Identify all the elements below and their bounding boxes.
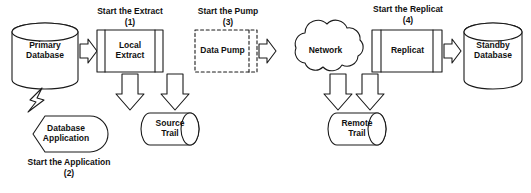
remote-trail-to-replicat-arrow	[356, 74, 384, 110]
replicat-shape	[372, 30, 442, 72]
remote-trail-shape	[328, 113, 386, 145]
database-application-shape	[33, 116, 108, 152]
application-to-primary-lightning-icon	[28, 88, 44, 112]
primary-database-shape	[12, 23, 78, 89]
data-pump-shape	[195, 30, 257, 72]
extract-to-source-trail-arrow	[116, 74, 144, 110]
goldengate-flow-diagram: Primary Database Local Extract Source Tr…	[0, 0, 531, 193]
standby-database-shape	[464, 23, 522, 89]
primary-to-extract-arrow	[80, 39, 97, 63]
local-extract-shape	[97, 30, 163, 72]
network-to-remote-trail-arrow	[324, 74, 352, 110]
diagram-canvas	[0, 0, 531, 193]
source-trail-to-pump-arrow	[161, 74, 189, 110]
replicat-to-standby-arrow	[444, 39, 461, 63]
source-trail-shape	[141, 113, 199, 145]
network-cloud-shape	[295, 20, 363, 71]
pump-to-network-arrow	[259, 39, 276, 63]
